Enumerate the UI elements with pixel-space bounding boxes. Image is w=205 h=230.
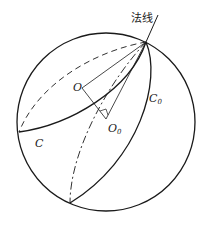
center-O0-label: O0 xyxy=(108,122,122,136)
radius-O0-to-P xyxy=(106,42,146,119)
curve-C0-label: C0 xyxy=(149,92,162,106)
curve-C0-sub: 0 xyxy=(157,98,162,106)
center-O0-text: O xyxy=(108,122,117,135)
radius-O-to-P xyxy=(82,42,146,88)
sphere-outline xyxy=(17,33,195,211)
normal-line-label: 法线 xyxy=(131,11,153,25)
curve-C-label: C xyxy=(35,137,44,150)
center-O0-sub: 0 xyxy=(117,128,122,136)
sphere-diagram: 法线 O O0 C C0 xyxy=(0,0,205,230)
right-angle-mark xyxy=(100,109,108,115)
center-O-label: O xyxy=(73,81,82,94)
segment-O-to-O0 xyxy=(82,88,106,119)
